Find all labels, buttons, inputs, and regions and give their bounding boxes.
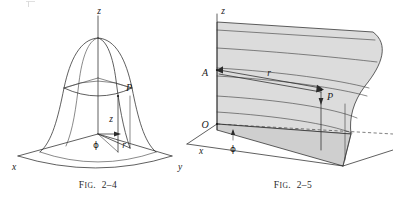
label-radius-r: r [122, 140, 126, 150]
axis-label-z-top: z [96, 6, 101, 16]
axis-label-x: x [198, 146, 204, 156]
label-origin-o: O [201, 119, 208, 130]
figure-2-4-caption: FIG. 2–4 [0, 180, 196, 190]
figure-2-4: z x y P z r ϕ [0, 0, 196, 204]
label-radius-r: r [267, 68, 271, 78]
caption-number: 2–5 [297, 180, 312, 190]
label-point-p: P [326, 91, 333, 102]
caption-number: 2–4 [102, 180, 117, 190]
label-azimuth-phi: ϕ [93, 140, 99, 150]
figure-pair: z x y P z r ϕ [0, 0, 393, 204]
figure-2-5-caption: FIG. 2–5 [193, 180, 393, 190]
figure-2-4-drawing: z x y P z r ϕ [0, 0, 196, 204]
axis-label-z: z [220, 6, 225, 16]
caption-prefix-smallcaps: IG [85, 181, 94, 190]
axis-label-x: x [11, 162, 17, 172]
figure-2-5-drawing: z A O P r x ϕ [193, 0, 393, 204]
axis-label-y: y [177, 162, 183, 172]
label-azimuth-phi: ϕ [230, 144, 236, 154]
label-height-z: z [108, 114, 113, 124]
caption-prefix-smallcaps: IG [280, 181, 289, 190]
label-point-a: A [201, 67, 209, 78]
figure-2-5: z A O P r x ϕ [193, 0, 393, 204]
origin-marker [216, 123, 218, 125]
point-a-marker [216, 69, 218, 71]
point-p-marker [320, 89, 322, 91]
point-p-marker [117, 95, 119, 97]
label-point-p: P [125, 82, 132, 93]
